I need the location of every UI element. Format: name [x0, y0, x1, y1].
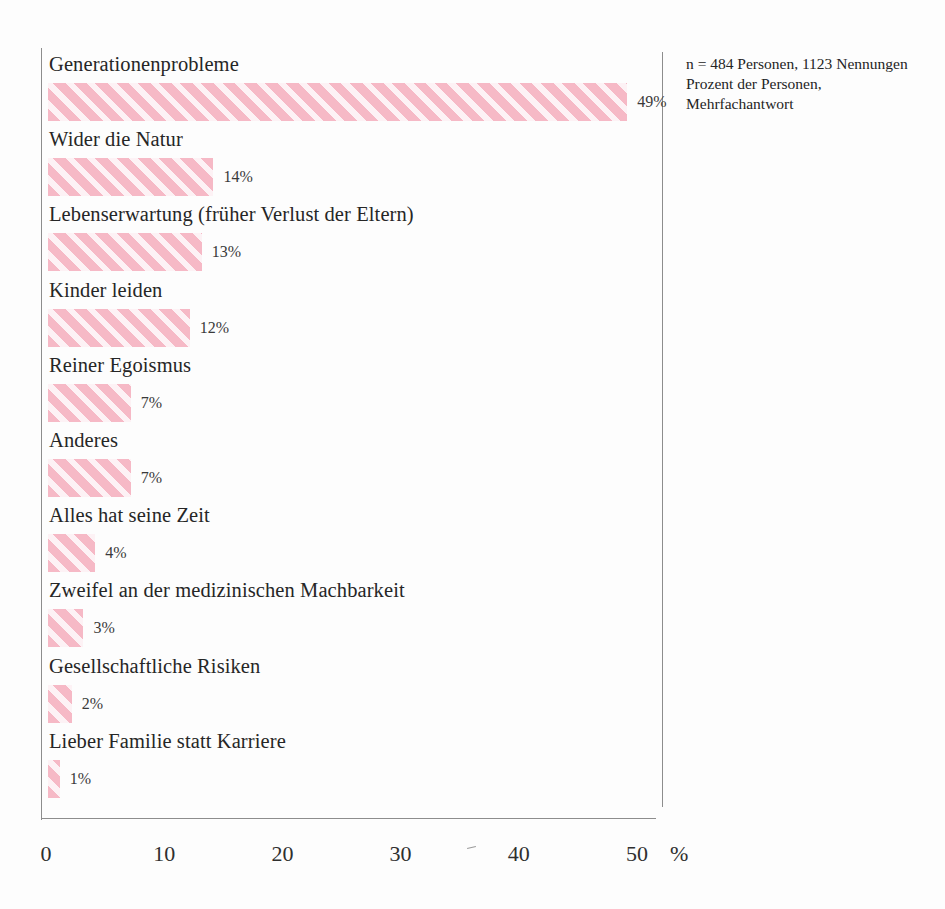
bar	[48, 459, 131, 497]
x-tick-label: 0	[41, 840, 52, 868]
bar	[48, 609, 83, 647]
bar	[48, 760, 60, 798]
note-line-3: Mehrfachantwort	[686, 94, 936, 114]
bar-value-label: 4%	[105, 543, 126, 563]
x-tick-label: 30	[390, 840, 412, 868]
bar-value-label: 1%	[70, 769, 91, 789]
note-line-1: n = 484 Personen, 1123 Nennungen	[686, 54, 936, 74]
x-tick-label: 10	[153, 840, 175, 868]
bar-category-label: Kinder leiden	[49, 278, 162, 303]
note-divider-line	[662, 52, 663, 807]
bar-category-label: Anderes	[49, 428, 118, 453]
x-tick-label: 50	[626, 840, 648, 868]
bar-value-label: 7%	[141, 393, 162, 413]
chart-note: n = 484 Personen, 1123 Nennungen Prozent…	[686, 54, 936, 114]
x-tick-label: 40	[508, 840, 530, 868]
bar	[48, 83, 627, 121]
chart-page: Generationenprobleme49%Wider die Natur14…	[0, 0, 945, 909]
note-line-2: Prozent der Personen,	[686, 74, 936, 94]
bar-category-label: Reiner Egoismus	[49, 353, 191, 378]
bar-value-label: 14%	[223, 167, 252, 187]
bar-value-label: 49%	[637, 92, 666, 112]
bar	[48, 158, 213, 196]
bar-value-label: 7%	[141, 468, 162, 488]
bar-value-label: 13%	[212, 242, 241, 262]
x-axis-unit-label: %	[670, 840, 688, 868]
bar-category-label: Gesellschaftliche Risiken	[49, 654, 260, 679]
bar-category-label: Wider die Natur	[49, 127, 183, 152]
bar	[48, 309, 190, 347]
bar-value-label: 3%	[93, 618, 114, 638]
bar-value-label: 2%	[82, 694, 103, 714]
bar	[48, 384, 131, 422]
bar	[48, 233, 202, 271]
bar-value-label: 12%	[200, 318, 229, 338]
bar-category-label: Alles hat seine Zeit	[49, 503, 210, 528]
bar-rows: Generationenprobleme49%Wider die Natur14…	[0, 0, 662, 820]
bar-category-label: Lebenserwartung (früher Verlust der Elte…	[49, 202, 414, 227]
x-tick-label: 20	[271, 840, 293, 868]
bar	[48, 685, 72, 723]
bar-category-label: Zweifel an der medizinischen Machbarkeit	[49, 578, 405, 603]
bar	[48, 534, 95, 572]
bar-category-label: Lieber Familie statt Karriere	[49, 729, 286, 754]
bar-category-label: Generationenprobleme	[49, 52, 239, 77]
